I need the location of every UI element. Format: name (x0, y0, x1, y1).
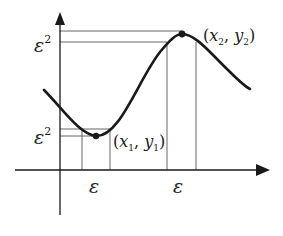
min-point-marker (93, 133, 99, 139)
eps-x-left-label: ε (89, 175, 99, 197)
function-extrema-diagram: ε2 ε2 ε ε (x1, y1) (x2, y2) (0, 0, 283, 236)
axes (15, 22, 258, 215)
x-axis-arrow-icon (256, 164, 270, 176)
eps-squared-top-label: ε2 (34, 33, 51, 56)
eps-squared-bottom-label: ε2 (34, 125, 51, 148)
max-point-label: (x2, y2) (203, 26, 255, 47)
max-point-marker (179, 31, 186, 38)
function-curve (44, 34, 250, 136)
min-point-label: (x1, y1) (113, 132, 165, 153)
eps-x-right-label: ε (173, 175, 183, 197)
diagram-canvas: ε2 ε2 ε ε (x1, y1) (x2, y2) (0, 0, 283, 236)
y-axis-arrow-icon (55, 12, 65, 25)
